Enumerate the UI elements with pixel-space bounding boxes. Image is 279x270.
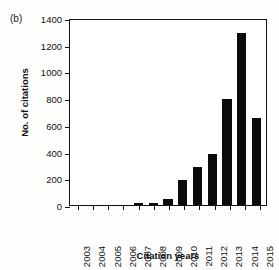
bar [252,118,261,205]
x-axis-title: Citation years [69,250,267,261]
bar-slot [131,20,146,205]
bar-slot [146,20,161,205]
y-tick-label: 0 [57,201,62,212]
bar [237,33,246,205]
bar-slot [116,20,131,205]
y-tick-label: 600 [46,120,62,131]
bar [178,180,187,205]
figure-panel-b: (b) No. of citations 0200400600800100012… [0,0,279,270]
y-tick-label: 1000 [41,67,62,78]
bar-slot [190,20,205,205]
plot-area [69,19,267,206]
bar-slot [234,20,249,205]
bar-slot [249,20,264,205]
y-tick-label: 200 [46,174,62,185]
bar-slot [102,20,117,205]
bar [208,154,217,205]
y-axis-tick-labels: 0200400600800100012001400 [26,14,62,212]
bar-slot [87,20,102,205]
bar-slot [72,20,87,205]
bar-slot [161,20,176,205]
y-tick-label: 1400 [41,14,62,25]
y-tick-label: 800 [46,94,62,105]
y-tick-label: 1200 [41,40,62,51]
bar-slot [205,20,220,205]
bar-series [70,20,266,205]
panel-label: (b) [10,13,22,24]
bar-slot [220,20,235,205]
y-tick-label: 400 [46,147,62,158]
x-axis-tick-labels: 2003200420052006200720082009201020112012… [69,210,267,248]
bar [222,99,231,205]
bar [193,167,202,205]
bar-slot [175,20,190,205]
